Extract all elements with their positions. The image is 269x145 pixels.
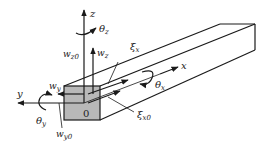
- x-axis: x: [160, 60, 187, 74]
- w-z-label: wz: [97, 48, 109, 60]
- theta-z-arrow: [76, 28, 96, 35]
- theta-y-rotation: θy: [36, 94, 52, 128]
- y-axis-label: y: [16, 88, 23, 99]
- w-y0-label: wy0: [56, 129, 73, 141]
- theta-y-arrow: [39, 94, 52, 110]
- theta-z-label: θz: [99, 23, 109, 36]
- z-axis-label: z: [89, 8, 96, 19]
- w-y-label: wy: [49, 81, 62, 93]
- beam-diagram: z θz wz0 wz ξx x θx wy y θy: [0, 0, 269, 145]
- xi-x0-leader: [108, 97, 134, 112]
- beam-top-right-edge: [100, 24, 255, 86]
- beam-bottom-right-edge: [100, 50, 255, 120]
- xi-x0-label: ξx0: [137, 109, 151, 122]
- w-y0-leader: [59, 103, 62, 128]
- x-axis-arrow: [160, 67, 178, 74]
- x-axis-label: x: [181, 60, 187, 71]
- theta-z-rotation: θz: [76, 23, 109, 36]
- theta-y-label: θy: [36, 115, 47, 128]
- theta-x-label: θx: [155, 79, 165, 92]
- xi-x-label: ξx: [130, 41, 140, 54]
- origin-label: 0: [83, 108, 89, 119]
- w-z0-label: wz0: [63, 49, 79, 61]
